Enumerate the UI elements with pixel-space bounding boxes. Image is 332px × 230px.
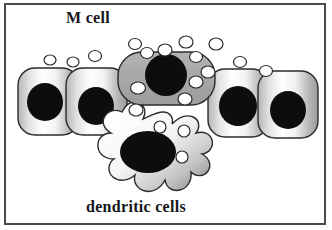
antigen-particle — [190, 52, 203, 63]
dendritic-cell-vacuole — [178, 125, 190, 137]
diagram-canvas — [0, 0, 332, 230]
antigen-particle — [89, 51, 102, 62]
antigen-particle — [67, 57, 79, 67]
m-cell-vesicle — [178, 93, 192, 105]
m-cell-vesicle — [189, 76, 203, 88]
figure-root: M cell dendritic cells — [0, 0, 332, 230]
m-cell-label: M cell — [66, 9, 110, 27]
m-cell-nucleus — [145, 54, 187, 96]
dendritic-cell-vacuole — [176, 151, 188, 163]
antigen-particle — [209, 38, 223, 50]
antigen-particle — [179, 36, 193, 48]
dendritic-cells-label: dendritic cells — [86, 198, 186, 216]
epithelial-cell-4 — [258, 71, 318, 138]
epithelial-cell-4-nucleus — [270, 91, 306, 129]
m-cell-vesicle — [131, 82, 146, 94]
epithelial-cell-1-nucleus — [27, 83, 63, 121]
epithelial-cell-3-nucleus — [219, 86, 257, 126]
antigen-particle — [260, 66, 273, 77]
antigen-particle — [129, 39, 142, 50]
antigen-particle — [44, 55, 56, 65]
antigen-particle — [141, 48, 154, 59]
antigen-particle — [234, 57, 247, 68]
dendritic-cell-nucleus — [120, 131, 176, 173]
m-cell-vesicle — [201, 66, 215, 78]
antigen-particle — [158, 44, 172, 56]
dendritic-cell-vacuole — [154, 121, 166, 133]
dendritic-cell — [98, 102, 213, 191]
antigen-particle — [129, 104, 143, 116]
